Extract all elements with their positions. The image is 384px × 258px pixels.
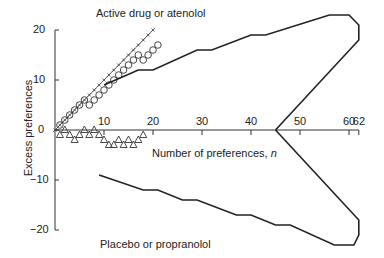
- y-tick-label: −10: [30, 173, 49, 185]
- cross-marker: [127, 53, 131, 57]
- triangle-marker: [120, 141, 127, 148]
- cross-marker: [87, 93, 91, 97]
- cross-marker: [122, 58, 126, 62]
- triangle-marker: [115, 136, 122, 143]
- circle-marker: [155, 42, 162, 49]
- cross-marker: [68, 113, 72, 117]
- cross-marker: [107, 73, 111, 77]
- cross-marker: [117, 63, 121, 67]
- cross-marker: [78, 103, 82, 107]
- cross-marker: [146, 33, 150, 37]
- triangle-marker: [96, 131, 103, 138]
- cross-marker: [97, 83, 101, 87]
- y-tick-label: 10: [33, 73, 45, 85]
- triangle-marker: [71, 136, 78, 143]
- cross-marker: [112, 68, 116, 72]
- x-axis-label: Number of preferences, n: [152, 147, 277, 159]
- triangle-marker: [130, 141, 137, 148]
- x-tick-label: 10: [98, 115, 110, 127]
- triangle-marker: [110, 141, 117, 148]
- triangle-marker: [91, 126, 98, 133]
- triangle-marker: [105, 141, 112, 148]
- triangle-marker: [56, 131, 63, 138]
- x-tick-label: 30: [196, 115, 208, 127]
- x-tick-label: 40: [245, 115, 257, 127]
- y-axis-label: Excess preferences: [22, 78, 34, 178]
- x-tick-label: 50: [294, 115, 306, 127]
- chart-plot-area: [0, 0, 384, 258]
- cross-marker: [58, 123, 62, 127]
- x-tick-label: 20: [147, 115, 159, 127]
- triangle-marker: [101, 136, 108, 143]
- x-tick-label: 62: [353, 115, 365, 127]
- y-tick-label: 20: [33, 23, 45, 35]
- bottom-annotation: Placebo or propranolol: [100, 238, 211, 250]
- triangle-marker: [135, 136, 142, 143]
- cross-marker: [102, 78, 106, 82]
- cross-marker: [141, 38, 145, 42]
- y-tick-label: 0: [38, 123, 44, 135]
- cross-marker: [151, 28, 155, 32]
- cross-marker: [131, 48, 135, 52]
- cross-marker: [136, 43, 140, 47]
- triangle-marker: [66, 131, 73, 138]
- triangle-marker: [140, 131, 147, 138]
- cross-marker: [73, 108, 77, 112]
- top-annotation: Active drug or atenolol: [96, 7, 205, 19]
- triangle-marker: [86, 131, 93, 138]
- triangle-marker: [81, 126, 88, 133]
- triangle-marker: [125, 136, 132, 143]
- cross-marker: [82, 98, 86, 102]
- y-tick-label: −20: [30, 223, 49, 235]
- cross-marker: [63, 118, 67, 122]
- cross-marker: [92, 88, 96, 92]
- triangle-marker: [76, 131, 83, 138]
- boundary-line: [104, 15, 359, 130]
